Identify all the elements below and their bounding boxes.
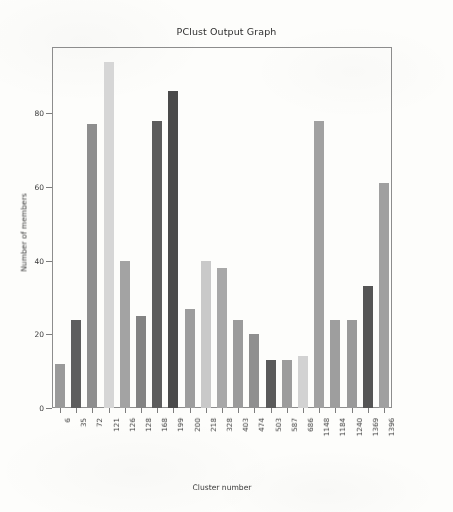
x-axis-tick: [157, 408, 158, 413]
bar: [298, 356, 308, 408]
bar: [120, 261, 130, 408]
bar: [330, 320, 340, 408]
x-axis-tick-label: 35: [79, 418, 88, 427]
x-axis-tick-label: 126: [128, 418, 137, 432]
y-axis-tick-label: 0: [4, 404, 44, 413]
x-axis-tick-label: 474: [257, 418, 266, 432]
x-axis-tick-label: 218: [209, 418, 218, 432]
bar: [71, 320, 81, 408]
x-axis-tick: [319, 408, 320, 413]
x-axis-tick: [92, 408, 93, 413]
x-axis-tick: [222, 408, 223, 413]
x-axis-tick: [60, 408, 61, 413]
x-axis-tick: [238, 408, 239, 413]
x-axis-tick-label: 587: [290, 418, 299, 432]
x-axis-tick-label: 503: [274, 418, 283, 432]
x-axis-tick: [206, 408, 207, 413]
chart-title: PClust Output Graph: [0, 26, 453, 37]
bar: [217, 268, 227, 408]
bar: [152, 121, 162, 408]
x-axis-tick-label: 328: [225, 418, 234, 432]
bar: [379, 183, 389, 408]
x-axis-tick-label: 121: [112, 418, 121, 432]
plot-area: [52, 47, 392, 408]
bar: [282, 360, 292, 408]
bar: [347, 320, 357, 408]
bar: [168, 91, 178, 408]
y-axis-tick: [46, 187, 52, 188]
x-axis-tick: [352, 408, 353, 413]
x-axis-tick: [254, 408, 255, 413]
x-axis-tick-label: 200: [193, 418, 202, 432]
x-axis-tick-label: 6: [63, 418, 72, 423]
bar: [363, 286, 373, 408]
x-axis-label: Cluster number: [52, 483, 392, 492]
x-axis-tick: [384, 408, 385, 413]
x-axis-tick-label: 686: [306, 418, 315, 432]
x-axis-tick: [287, 408, 288, 413]
bar: [104, 62, 114, 408]
x-axis-tick: [173, 408, 174, 413]
bar: [87, 124, 97, 408]
bar: [233, 320, 243, 408]
x-axis-tick: [190, 408, 191, 413]
y-axis-tick: [46, 408, 52, 409]
y-axis-tick-label: 80: [4, 109, 44, 118]
x-axis-tick: [141, 408, 142, 413]
chart-figure: PClust Output Graph 020406080 6357212112…: [0, 0, 453, 512]
x-axis-tick-label: 168: [160, 418, 169, 432]
bar: [201, 261, 211, 408]
x-axis-tick-label: 1184: [338, 418, 347, 436]
x-axis-tick: [303, 408, 304, 413]
x-axis-tick-label: 1240: [355, 418, 364, 436]
x-axis-tick: [271, 408, 272, 413]
x-axis-tick: [335, 408, 336, 413]
bar: [185, 309, 195, 408]
bar: [136, 316, 146, 408]
x-axis-tick-label: 403: [241, 418, 250, 432]
y-axis-tick: [46, 113, 52, 114]
x-axis-tick-label: 72: [95, 418, 104, 427]
y-axis-tick: [46, 261, 52, 262]
y-axis-tick: [46, 334, 52, 335]
x-axis-tick: [76, 408, 77, 413]
bar: [249, 334, 259, 408]
bar-series: [52, 47, 392, 408]
x-axis-tick-label: 1148: [322, 418, 331, 436]
bar: [55, 364, 65, 408]
bar: [266, 360, 276, 408]
x-axis-tick: [368, 408, 369, 413]
y-axis-tick-label: 20: [4, 330, 44, 339]
y-axis-label: Number of members: [20, 163, 29, 303]
x-axis-tick-label: 1369: [371, 418, 380, 436]
x-axis-tick-label: 128: [144, 418, 153, 432]
x-axis-tick: [109, 408, 110, 413]
x-axis-tick: [125, 408, 126, 413]
x-axis-tick-label: 1396: [387, 418, 396, 436]
x-axis-tick-label: 199: [176, 418, 185, 432]
bar: [314, 121, 324, 408]
